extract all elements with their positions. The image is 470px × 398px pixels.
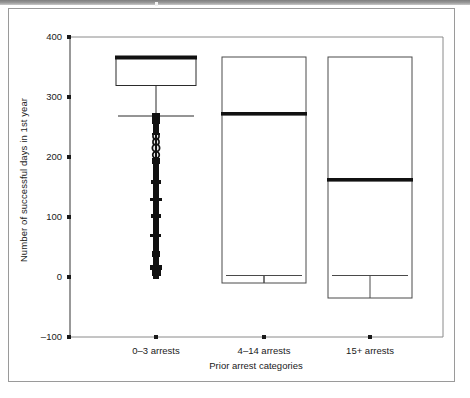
y-tick-label-0: 0 — [26, 271, 62, 282]
box-body-15plus — [328, 57, 412, 298]
y-tick-300 — [67, 95, 71, 99]
y-tick-200 — [67, 155, 71, 159]
y-tick-label-neg100: –100 — [22, 331, 62, 342]
y-tick-neg100 — [67, 335, 71, 339]
y-tick-label-300: 300 — [26, 91, 62, 102]
boxplot-chart: Number of successful days in 1st year 40… — [0, 0, 470, 398]
box-4-14-arrests — [221, 57, 307, 283]
y-axis-title: Number of successful days in 1st year — [18, 98, 29, 262]
box-body-0-3 — [116, 59, 196, 86]
boxplot-svg — [0, 0, 470, 398]
y-tick-100 — [67, 215, 71, 219]
page-canvas: Number of successful days in 1st year 40… — [0, 0, 470, 398]
y-tick-400 — [67, 35, 71, 39]
x-category-label-2: 15+ arrests — [346, 345, 394, 356]
x-tick-cat-2 — [368, 335, 372, 339]
x-category-label-0: 0–3 arrests — [132, 345, 180, 356]
y-tick-label-400: 400 — [26, 31, 62, 42]
median-line-0-3 — [115, 56, 197, 60]
median-line-4-14 — [221, 112, 307, 116]
box-15plus-arrests — [327, 57, 413, 298]
box-body-4-14 — [222, 57, 306, 283]
median-line-15plus — [327, 178, 413, 182]
y-tick-label-200: 200 — [26, 151, 62, 162]
x-axis-title: Prior arrest categories — [209, 360, 302, 371]
y-tick-0 — [67, 275, 71, 279]
x-category-label-1: 4–14 arrests — [238, 345, 291, 356]
x-tick-cat-0 — [154, 335, 158, 339]
box-0-3-arrests — [115, 56, 197, 280]
outlier-cluster-0-3 — [150, 113, 162, 279]
x-tick-cat-1 — [262, 335, 266, 339]
y-tick-label-100: 100 — [26, 211, 62, 222]
